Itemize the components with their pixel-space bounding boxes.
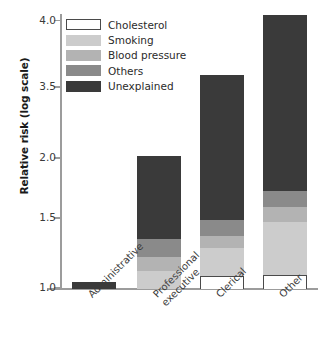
y-tick-label: 1.5 <box>16 211 56 223</box>
legend-swatch <box>66 81 101 92</box>
legend-item-smoking[interactable]: Smoking <box>66 32 186 47</box>
legend-swatch <box>66 50 101 61</box>
y-tick-label: 1.0 <box>16 281 56 293</box>
bar-segment-unexplained[interactable] <box>263 15 307 191</box>
legend-item-others[interactable]: Others <box>66 63 186 78</box>
legend-label: Blood pressure <box>108 49 186 61</box>
chart-legend: CholesterolSmokingBlood pressureOthersUn… <box>66 17 186 94</box>
legend-item-cholesterol[interactable]: Cholesterol <box>66 17 186 32</box>
bar-segment-others[interactable] <box>263 191 307 207</box>
legend-item-unexplained[interactable]: Unexplained <box>66 79 186 94</box>
legend-item-blood-pressure[interactable]: Blood pressure <box>66 48 186 63</box>
legend-label: Others <box>108 65 143 77</box>
bar-3[interactable] <box>200 75 244 289</box>
bar-segment-unexplained[interactable] <box>137 156 181 239</box>
y-tick-label: 3.5 <box>16 80 56 92</box>
bar-segment-blood-pressure[interactable] <box>263 207 307 222</box>
bar-segment-others[interactable] <box>200 220 244 235</box>
bar-segment-unexplained[interactable] <box>200 75 244 221</box>
y-tick-label: 2.0 <box>16 151 56 163</box>
legend-label: Smoking <box>108 34 154 46</box>
legend-swatch <box>66 65 101 76</box>
legend-swatch <box>66 35 101 46</box>
bar-segment-blood-pressure[interactable] <box>200 236 244 249</box>
chart-figure: Relative risk (log scale) 1.01.52.03.54.… <box>0 0 324 363</box>
y-tick-label: 4.0 <box>16 14 56 26</box>
legend-label: Cholesterol <box>108 19 167 31</box>
bar-4[interactable] <box>263 15 307 289</box>
legend-swatch <box>66 19 101 30</box>
y-axis-title: Relative risk (log scale) <box>18 36 30 216</box>
legend-label: Unexplained <box>108 80 174 92</box>
bar-segment-smoking[interactable] <box>263 222 307 275</box>
